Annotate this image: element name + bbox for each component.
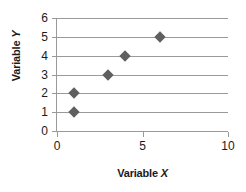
y-axis-tick-label: 3	[4, 69, 48, 81]
y-axis-tick-labels: 0123456	[0, 0, 48, 192]
scatter-plot-figure: Variable Y 0123456 Variable X 0510	[0, 0, 246, 192]
x-axis-title: Variable X	[57, 167, 228, 179]
y-axis-tick	[52, 18, 57, 19]
y-axis-tick-label: 5	[4, 31, 48, 43]
x-axis-title-prefix: Variable	[117, 167, 160, 179]
y-axis-tick	[52, 56, 57, 57]
gridline	[57, 18, 228, 19]
x-axis-title-variable: X	[161, 167, 168, 179]
gridline	[57, 93, 228, 94]
x-axis-tick	[143, 132, 144, 137]
y-axis-tick	[52, 75, 57, 76]
gridline	[57, 75, 228, 76]
plot-area	[57, 18, 228, 131]
data-point-marker	[103, 69, 114, 80]
x-axis-tick-label: 5	[123, 140, 163, 152]
data-point-marker	[68, 88, 79, 99]
y-axis-tick	[52, 93, 57, 94]
x-axis-tick	[228, 132, 229, 137]
y-axis-tick-label: 6	[4, 12, 48, 24]
y-axis-tick-label: 4	[4, 50, 48, 62]
x-axis-tick-label: 10	[208, 140, 246, 152]
x-axis-tick	[57, 132, 58, 137]
gridline	[57, 56, 228, 57]
y-axis-tick	[52, 112, 57, 113]
gridline	[57, 112, 228, 113]
x-axis-tick-label: 0	[37, 140, 77, 152]
y-axis-tick-label: 1	[4, 106, 48, 118]
y-axis-tick-label: 0	[4, 125, 48, 137]
data-point-marker	[154, 31, 165, 42]
y-axis-tick	[52, 37, 57, 38]
data-point-marker	[120, 50, 131, 61]
y-axis-tick-label: 2	[4, 87, 48, 99]
gridline	[57, 37, 228, 38]
data-point-marker	[68, 106, 79, 117]
